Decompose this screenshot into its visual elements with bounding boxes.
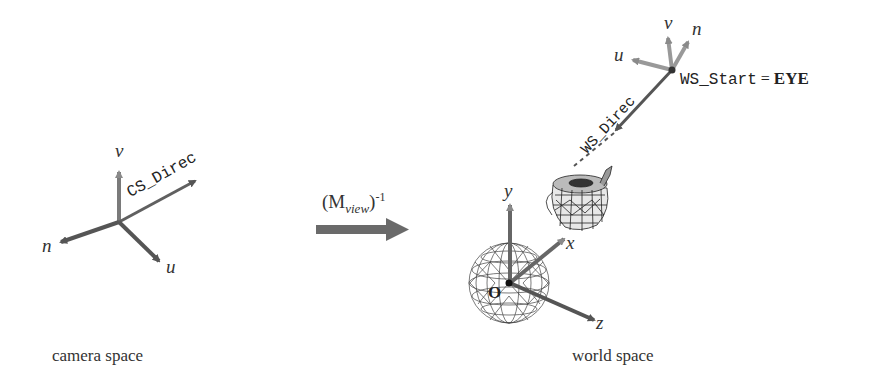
- camera-u-label: u: [166, 256, 176, 278]
- camera-space-caption: camera space: [52, 346, 143, 366]
- eye-v-label: v: [664, 12, 672, 34]
- transform-superscript: -1: [375, 190, 385, 204]
- eye-u-axis: [633, 60, 672, 70]
- transform-arrow: [316, 218, 409, 241]
- ws-start-label: WS_Start: [680, 71, 757, 89]
- eye-n-label: n: [692, 18, 702, 40]
- equals-sign: =: [761, 70, 770, 87]
- eye-u-label: u: [614, 44, 624, 66]
- transform-base: (M: [322, 191, 345, 212]
- camera-v-label: v: [115, 140, 123, 162]
- eye-n-axis: [672, 42, 688, 70]
- origin-point: [506, 280, 513, 287]
- camera-n-label: n: [42, 235, 52, 257]
- ws-start-equation: WS_Start = EYE: [680, 69, 809, 89]
- world-x-label: x: [566, 232, 574, 254]
- world-z-label: z: [596, 312, 603, 334]
- camera-u-axis: [119, 222, 159, 261]
- teapot-wireframe: [546, 166, 612, 231]
- eye-point: [669, 67, 676, 74]
- world-space-caption: world space: [572, 346, 654, 366]
- transform-subscript: view: [345, 201, 369, 216]
- eye-v-axis: [668, 38, 672, 70]
- transform-label: (Mview)-1: [322, 190, 385, 217]
- eye-label: EYE: [774, 69, 809, 88]
- world-y-label: y: [504, 180, 512, 202]
- origin-label: O: [488, 283, 501, 303]
- camera-n-axis: [61, 222, 119, 242]
